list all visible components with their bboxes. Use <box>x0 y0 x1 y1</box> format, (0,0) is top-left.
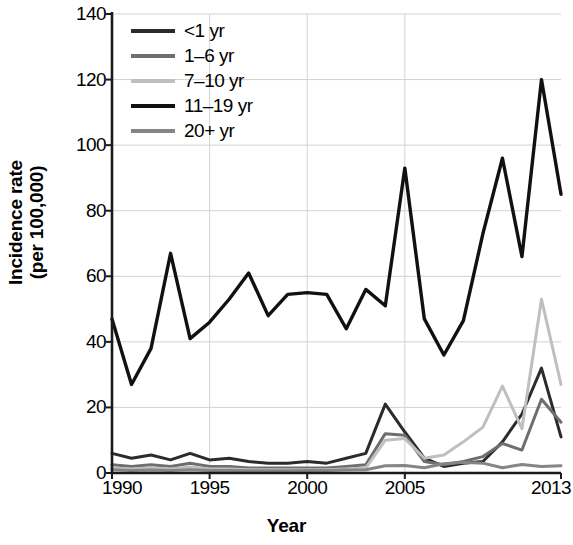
legend-item-label: <1 yr <box>184 21 224 40</box>
series-line-7-10-yr <box>112 299 561 469</box>
legend-line-swatch-icon <box>131 104 175 108</box>
legend-line-swatch-icon <box>131 29 175 33</box>
legend-item: 20+ yr <box>131 118 321 143</box>
legend-item: <1 yr <box>131 18 321 43</box>
x-axis-tick-label: 1995 <box>190 477 230 499</box>
x-axis-tick-label: 2013 <box>531 477 571 499</box>
chart-legend: <1 yr1–6 yr7–10 yr11–19 yr20+ yr <box>131 18 321 143</box>
legend-line-swatch-icon <box>131 54 175 58</box>
legend-item-label: 1–6 yr <box>184 46 234 65</box>
x-axis-tick-label: 1990 <box>102 477 142 499</box>
legend-line-swatch-icon <box>131 79 175 83</box>
legend-line-swatch-icon <box>131 129 175 133</box>
legend-item: 11–19 yr <box>131 93 321 118</box>
series-line-1-yr <box>112 368 561 466</box>
legend-item: 7–10 yr <box>131 68 321 93</box>
legend-item: 1–6 yr <box>131 43 321 68</box>
legend-item-label: 7–10 yr <box>184 71 244 90</box>
legend-item-label: 20+ yr <box>184 121 234 140</box>
incidence-rate-line-chart: Incidence rate (per 100,000) 02040608010… <box>0 0 573 545</box>
legend-item-label: 11–19 yr <box>184 96 253 115</box>
x-axis-title: Year <box>0 515 573 537</box>
x-axis-tick-label: 2005 <box>385 477 425 499</box>
x-axis-tick-label: 2000 <box>287 477 327 499</box>
